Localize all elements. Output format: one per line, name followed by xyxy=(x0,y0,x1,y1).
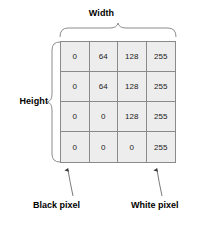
grid-cell: 128 xyxy=(118,42,147,72)
grid-cell: 0 xyxy=(61,132,90,162)
grid-cell: 0 xyxy=(61,42,90,72)
height-label: Height xyxy=(4,96,48,106)
black-pixel-label: Black pixel xyxy=(33,200,80,210)
grid-cell: 0 xyxy=(90,102,119,132)
grid-cell: 255 xyxy=(147,132,176,162)
pixel-grid-diagram: Width Height 0 64 128 255 0 64 128 255 0… xyxy=(0,0,203,230)
black-pixel-arrow-icon xyxy=(68,170,73,196)
white-pixel-label: White pixel xyxy=(131,200,179,210)
white-pixel-arrow-icon xyxy=(157,170,162,196)
grid-cell: 0 xyxy=(61,102,90,132)
grid-cell: 64 xyxy=(90,42,119,72)
grid-cell: 0 xyxy=(90,132,119,162)
width-brace-icon xyxy=(58,22,178,38)
grid-cell: 255 xyxy=(147,72,176,102)
grid-cell: 128 xyxy=(118,102,147,132)
grid-cell: 0 xyxy=(61,72,90,102)
grid-cell: 64 xyxy=(90,72,119,102)
width-label: Width xyxy=(0,8,203,18)
grid-cell: 128 xyxy=(118,72,147,102)
pixel-grid: 0 64 128 255 0 64 128 255 0 0 128 255 0 … xyxy=(60,41,176,163)
grid-cell: 255 xyxy=(147,42,176,72)
height-brace-icon xyxy=(46,40,61,164)
grid-cell: 255 xyxy=(147,102,176,132)
grid-cell: 0 xyxy=(118,132,147,162)
